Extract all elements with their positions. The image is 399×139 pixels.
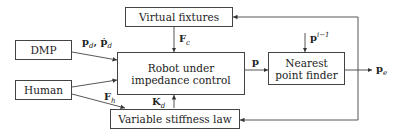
nearest-point-finder-block: Nearest point finder [268, 52, 345, 85]
signal-pe: pe [376, 63, 387, 77]
signal-kd: Kd [152, 96, 165, 110]
signal-pd-pddot: pd, ṗd [82, 36, 112, 50]
signal-fc: Fc [179, 33, 190, 47]
virtual-fixtures-label: Virtual fixtures [139, 11, 219, 23]
dmp-label: DMP [30, 44, 56, 56]
virtual-fixtures-block: Virtual fixtures [125, 7, 233, 27]
nearest-label-line2: point finder [275, 69, 337, 81]
nearest-label-line1: Nearest [285, 57, 328, 69]
signal-p: p [252, 56, 259, 67]
robot-label-line2: impedance control [131, 74, 230, 86]
variable-stiffness-label: Variable stiffness law [118, 113, 231, 125]
human-block: Human [15, 80, 72, 100]
signal-fh: Fh [104, 91, 116, 105]
variable-stiffness-law-block: Variable stiffness law [110, 109, 240, 129]
robot-label-line1: Robot under [148, 62, 214, 74]
robot-impedance-control-block: Robot under impedance control [117, 52, 245, 95]
human-label: Human [24, 84, 63, 96]
signal-p-prev: pi−1 [310, 31, 330, 43]
dmp-block: DMP [15, 40, 72, 60]
